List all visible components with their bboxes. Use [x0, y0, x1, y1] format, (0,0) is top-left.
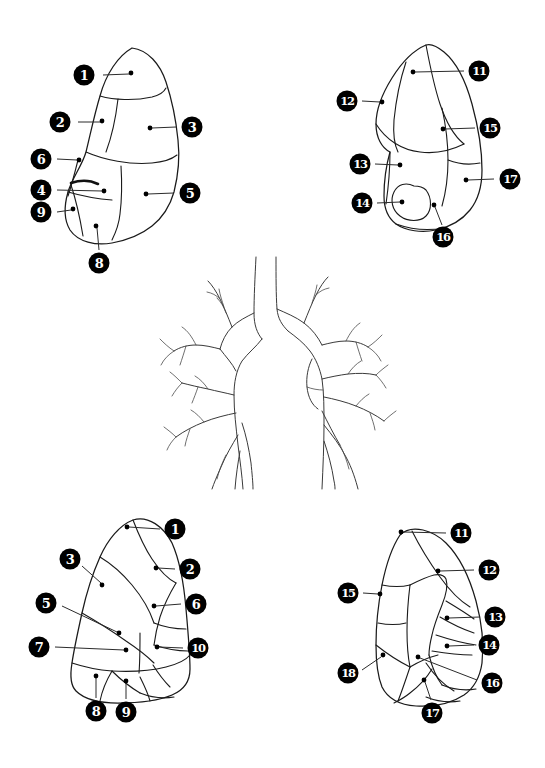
- segment-label-17[interactable]: 17: [422, 703, 443, 724]
- segment-label-13[interactable]: 13: [350, 154, 371, 175]
- segment-label-15[interactable]: 15: [480, 118, 501, 139]
- segment-label-2[interactable]: 2: [50, 112, 71, 133]
- lung-segments-figure: 1236459811121513171416132567108911121513…: [0, 0, 545, 768]
- segment-label-8[interactable]: 8: [86, 701, 107, 722]
- segment-label-9[interactable]: 9: [116, 702, 137, 723]
- segment-label-18[interactable]: 18: [338, 663, 359, 684]
- segment-label-11[interactable]: 11: [451, 523, 472, 544]
- segment-label-16[interactable]: 16: [482, 673, 503, 694]
- segment-label-15[interactable]: 15: [338, 583, 359, 604]
- segment-label-5[interactable]: 5: [180, 183, 201, 204]
- segment-label-12[interactable]: 12: [337, 91, 358, 112]
- segment-label-14[interactable]: 14: [352, 193, 373, 214]
- segment-label-5[interactable]: 5: [36, 593, 57, 614]
- segment-label-1[interactable]: 1: [165, 519, 186, 540]
- callout-badge-layer: 1236459811121513171416132567108911121513…: [0, 0, 545, 768]
- segment-label-16[interactable]: 16: [433, 227, 454, 248]
- segment-label-13[interactable]: 13: [485, 607, 506, 628]
- segment-label-7[interactable]: 7: [29, 637, 50, 658]
- segment-label-8[interactable]: 8: [89, 253, 110, 274]
- segment-label-17[interactable]: 17: [500, 169, 521, 190]
- segment-label-4[interactable]: 4: [31, 180, 52, 201]
- segment-label-6[interactable]: 6: [31, 149, 52, 170]
- segment-label-3[interactable]: 3: [60, 549, 81, 570]
- segment-label-6[interactable]: 6: [186, 594, 207, 615]
- segment-label-10[interactable]: 10: [188, 638, 209, 659]
- segment-label-14[interactable]: 14: [479, 635, 500, 656]
- segment-label-2[interactable]: 2: [180, 559, 201, 580]
- segment-label-11[interactable]: 11: [469, 61, 490, 82]
- segment-label-3[interactable]: 3: [182, 117, 203, 138]
- segment-label-12[interactable]: 12: [479, 560, 500, 581]
- segment-label-1[interactable]: 1: [74, 65, 95, 86]
- segment-label-9[interactable]: 9: [31, 202, 52, 223]
